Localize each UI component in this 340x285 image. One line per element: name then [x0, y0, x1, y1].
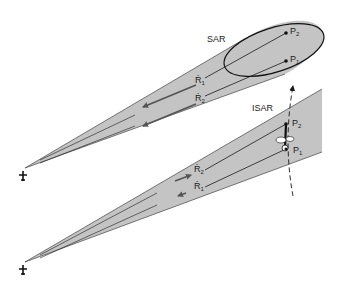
- airplane-icon: [19, 171, 27, 181]
- isar-beam-upper-edge: [25, 89, 322, 262]
- isar-point-p2: [284, 122, 288, 126]
- sar-title: SAR: [207, 34, 226, 44]
- sar-isar-diagram: SAR P2 P1 Ṙ1 Ṙ2 ISAR: [0, 0, 340, 285]
- isar-range-line-p1-near: [40, 205, 157, 258]
- airplane-icon: [19, 265, 27, 275]
- isar-beam-lower-edge: [25, 152, 322, 262]
- sar-point-p1: [284, 59, 288, 63]
- sar-point-p2: [284, 31, 288, 35]
- sar-range-line-p2-near: [40, 115, 135, 160]
- isar-title: ISAR: [252, 103, 274, 113]
- isar-range-line-p2-near: [40, 193, 157, 255]
- isar-point-p1: [285, 148, 288, 151]
- sar-beam-upper-edge: [25, 38, 246, 168]
